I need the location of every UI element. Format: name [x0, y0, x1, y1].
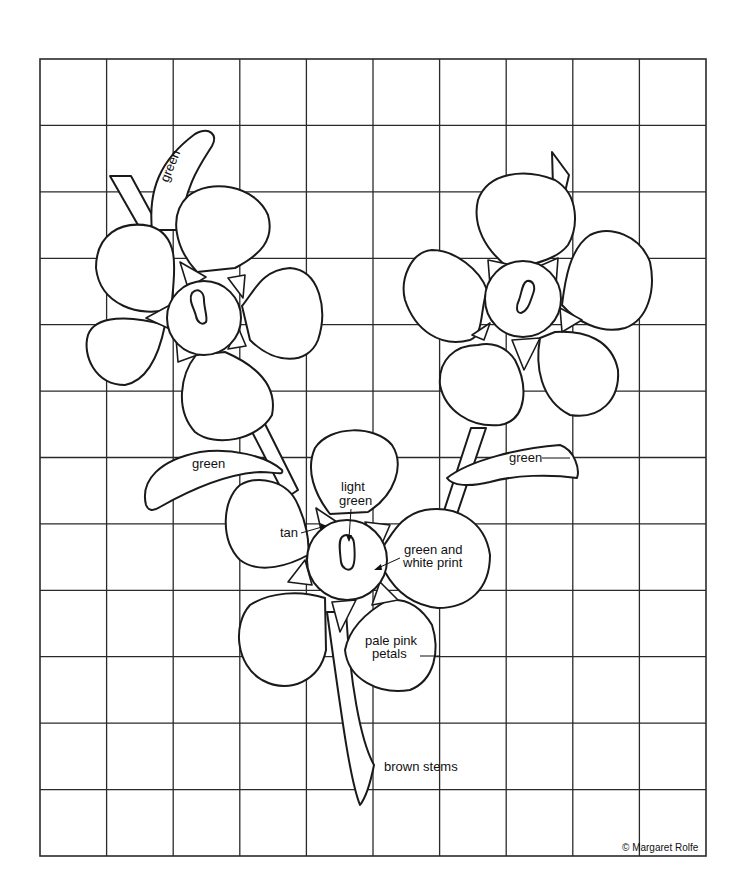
label-tan: tan: [280, 525, 298, 540]
petal: [96, 225, 174, 312]
petal: [239, 593, 326, 686]
upper-left-flower: [87, 131, 323, 498]
petal: [176, 186, 270, 272]
copyright: © Margaret Rolfe: [622, 842, 699, 853]
petal: [182, 352, 273, 440]
petal: [477, 174, 575, 268]
label-left-leaf: green: [192, 456, 225, 471]
petal: [562, 231, 652, 330]
petal: [87, 318, 165, 385]
petal: [538, 332, 618, 416]
label-print-2: white print: [402, 555, 463, 570]
petal: [404, 250, 487, 342]
petal: [226, 480, 309, 567]
petal: [440, 344, 524, 425]
label-petals-2: petals: [372, 646, 407, 661]
upper-left-stem-stub: [110, 176, 156, 232]
pattern-diagram: green green green light green tan green …: [0, 0, 730, 889]
center-seed: [340, 535, 355, 570]
petal: [242, 268, 322, 359]
label-stems: brown stems: [384, 759, 458, 774]
label-light: light: [341, 479, 365, 494]
label-right-leaf: green: [509, 450, 542, 465]
label-light-green: green: [339, 493, 372, 508]
